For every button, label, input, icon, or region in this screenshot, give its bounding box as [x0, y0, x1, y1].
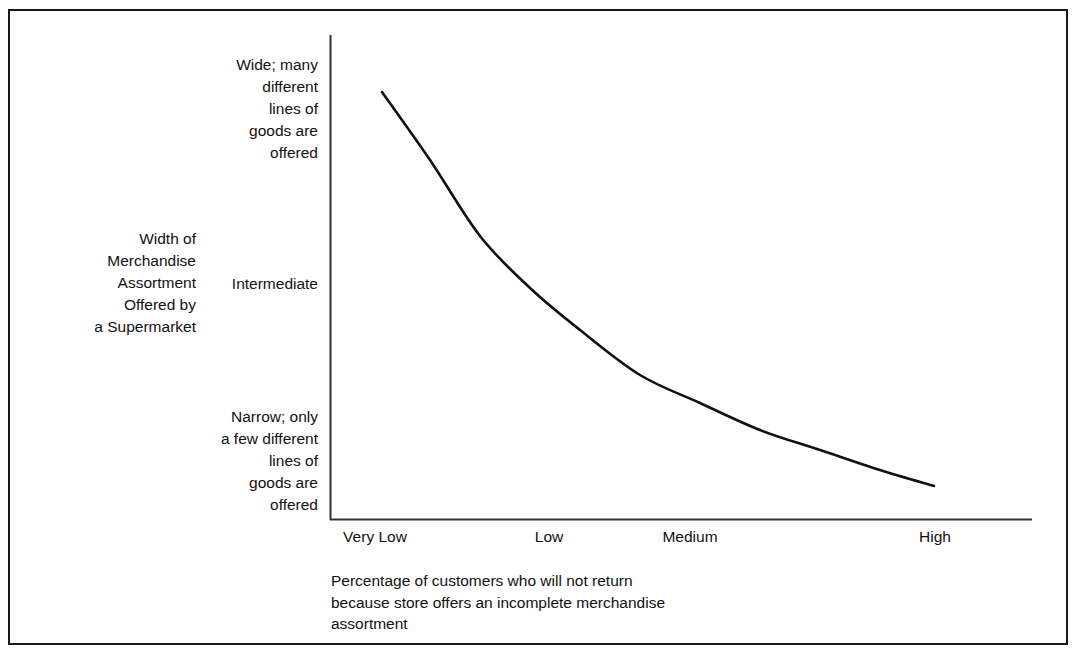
- plot-area: [0, 0, 1077, 666]
- x-tick-very-low: Very Low: [343, 528, 407, 546]
- chart-page: Width of Merchandise Assortment Offered …: [0, 0, 1077, 666]
- x-tick-low: Low: [535, 528, 563, 546]
- x-axis-caption: Percentage of customers who will not ret…: [331, 570, 791, 635]
- x-tick-high: High: [919, 528, 951, 546]
- data-curve: [382, 92, 934, 486]
- x-tick-medium: Medium: [662, 528, 717, 546]
